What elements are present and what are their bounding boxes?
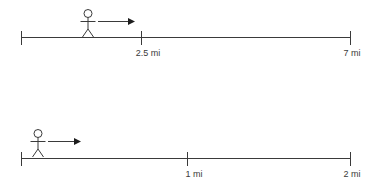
- diagram-canvas: 2.5 mi 7 mi: [0, 0, 381, 185]
- bottom-end-tick-label: 2 mi: [343, 169, 360, 179]
- stick-figure-right-leg: [38, 149, 44, 157]
- stick-figure-left-leg: [33, 149, 39, 157]
- bottom-number-line-group: 1 mi 2 mi: [22, 130, 361, 180]
- stick-figure-right-leg: [88, 29, 94, 37]
- top-number-line-group: 2.5 mi 7 mi: [22, 10, 361, 59]
- bottom-midpoint-tick-label: 1 mi: [185, 169, 202, 179]
- stick-figure-head-icon: [34, 130, 42, 138]
- bottom-stick-figure-walker: [31, 130, 46, 158]
- stick-figure-left-leg: [83, 29, 89, 37]
- top-midpoint-tick-label: 2.5 mi: [136, 48, 161, 58]
- top-direction-arrow-icon: [98, 18, 135, 25]
- top-arrow-head: [128, 18, 135, 25]
- stick-figure-head-icon: [84, 10, 92, 18]
- bottom-arrow-head: [74, 138, 81, 145]
- bottom-direction-arrow-icon: [48, 138, 81, 145]
- top-stick-figure-walker: [81, 10, 96, 38]
- top-end-tick-label: 7 mi: [343, 48, 360, 58]
- distance-number-lines-figure: 2.5 mi 7 mi: [0, 0, 381, 185]
